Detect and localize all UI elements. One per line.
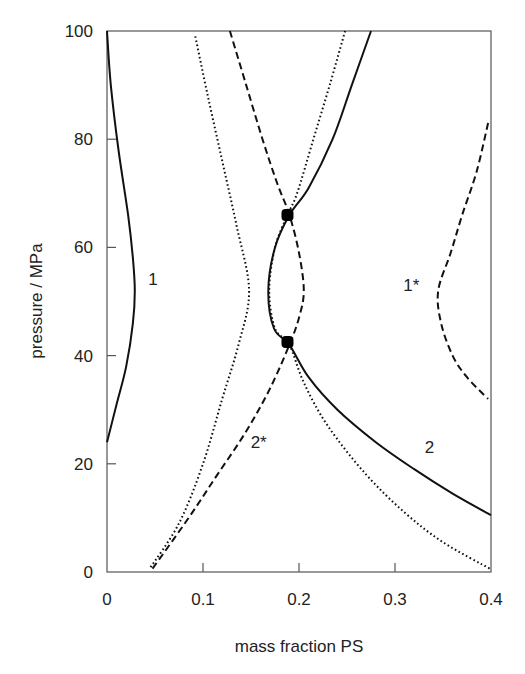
curve-label: 1 bbox=[148, 270, 157, 289]
phase-diagram-chart: 00.10.20.30.4020406080100 11*2*2 mass fr… bbox=[0, 0, 525, 674]
x-tick-label: 0.3 bbox=[383, 590, 407, 609]
y-axis-title: pressure / MPa bbox=[27, 243, 46, 359]
x-axis-title: mass fraction PS bbox=[235, 637, 364, 656]
critical-point-marker bbox=[281, 336, 293, 348]
y-tick-label: 80 bbox=[74, 130, 93, 149]
x-tick-label: 0.2 bbox=[287, 590, 311, 609]
y-tick-label: 100 bbox=[65, 22, 93, 41]
x-tick-label: 0.4 bbox=[479, 590, 503, 609]
curve-1- bbox=[438, 123, 488, 399]
curve-dotted-unlabelled- bbox=[149, 36, 249, 569]
tick-labels: 00.10.20.30.4020406080100 bbox=[65, 22, 503, 609]
critical-point-marker bbox=[281, 209, 293, 221]
curve-labels: 11*2*2 bbox=[148, 270, 434, 457]
curve-2 bbox=[268, 31, 491, 515]
curve-label: 2* bbox=[251, 433, 267, 452]
y-tick-label: 0 bbox=[84, 563, 93, 582]
curve-label: 2 bbox=[425, 438, 434, 457]
y-tick-label: 20 bbox=[74, 455, 93, 474]
x-tick-label: 0 bbox=[102, 590, 111, 609]
y-tick-label: 40 bbox=[74, 347, 93, 366]
x-tick-label: 0.1 bbox=[191, 590, 215, 609]
curve-2- bbox=[152, 31, 304, 569]
curves bbox=[107, 31, 491, 569]
axis-ticks bbox=[107, 139, 395, 572]
curve-1 bbox=[107, 31, 135, 442]
plot-frame bbox=[107, 31, 491, 572]
y-tick-label: 60 bbox=[74, 238, 93, 257]
curve-label: 1* bbox=[403, 276, 419, 295]
critical-points bbox=[281, 209, 293, 348]
